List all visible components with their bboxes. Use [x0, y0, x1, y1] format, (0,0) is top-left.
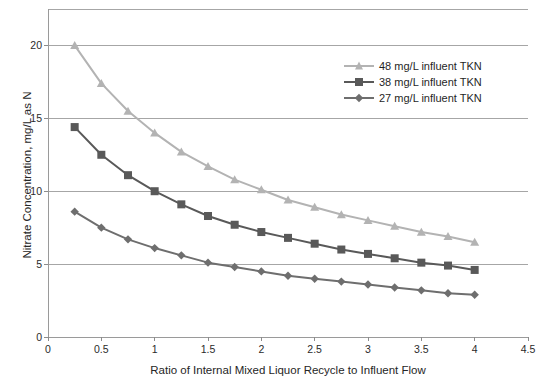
data-point-diamond [257, 267, 265, 275]
data-point-square [337, 246, 345, 254]
x-tick-label-3: 1.5 [188, 343, 228, 355]
legend-item-1: 38 mg/L influent TKN [344, 74, 482, 90]
legend-label-1: 38 mg/L influent TKN [379, 76, 482, 88]
data-point-square [71, 123, 79, 131]
diamond-marker-icon [355, 94, 363, 102]
data-point-diamond [417, 286, 425, 294]
y-axis-title: Nitrate Concentration, mg/L as N [18, 10, 36, 340]
data-point-square [311, 240, 319, 248]
legend-swatch-square [344, 75, 374, 89]
data-point-diamond [204, 258, 212, 266]
data-point-square [391, 254, 399, 262]
data-point-square [97, 151, 105, 159]
legend-swatch-diamond [344, 91, 374, 105]
square-marker-icon [355, 78, 363, 86]
series-2 [70, 207, 478, 298]
data-point-square [151, 187, 159, 195]
data-point-square [124, 171, 132, 179]
data-point-diamond [97, 223, 105, 231]
data-point-diamond [124, 235, 132, 243]
data-point-triangle [230, 175, 239, 183]
legend-item-0: 48 mg/L influent TKN [344, 58, 482, 74]
legend-swatch-triangle [344, 59, 374, 73]
series-1 [71, 123, 479, 274]
x-tick-label-9: 4.5 [508, 343, 542, 355]
x-tick-label-4: 2 [241, 343, 281, 355]
data-point-square [444, 262, 452, 270]
data-point-square [471, 266, 479, 274]
x-tick-label-6: 3 [348, 343, 388, 355]
data-point-square [364, 250, 372, 258]
data-point-square [204, 212, 212, 220]
data-point-diamond [310, 274, 318, 282]
data-point-diamond [177, 251, 185, 259]
nitrate-concentration-chart: 05101520 00.511.522.533.544.5 Nitrate Co… [0, 0, 542, 388]
x-tick-label-0: 0 [28, 343, 68, 355]
data-point-diamond [470, 291, 478, 299]
triangle-marker-icon [355, 62, 363, 70]
data-point-square [417, 259, 425, 267]
series-line-1 [75, 127, 475, 270]
x-tick-label-8: 4 [455, 343, 495, 355]
data-point-square [231, 221, 239, 229]
data-point-triangle [204, 162, 213, 170]
data-point-diamond [337, 277, 345, 285]
data-point-diamond [150, 244, 158, 252]
data-point-diamond [70, 207, 78, 215]
x-tick-label-1: 0.5 [81, 343, 121, 355]
x-axis-title: Ratio of Internal Mixed Liquor Recycle t… [48, 364, 528, 376]
data-point-diamond [364, 280, 372, 288]
legend-label-2: 27 mg/L influent TKN [379, 92, 482, 104]
x-tick-label-5: 2.5 [295, 343, 335, 355]
data-point-diamond [284, 272, 292, 280]
legend-label-0: 48 mg/L influent TKN [379, 60, 482, 72]
data-point-square [177, 200, 185, 208]
x-tick-label-2: 1 [135, 343, 175, 355]
chart-legend: 48 mg/L influent TKN 38 mg/L influent TK… [344, 58, 482, 106]
legend-item-2: 27 mg/L influent TKN [344, 90, 482, 106]
data-point-square [257, 228, 265, 236]
x-tick-label-7: 3.5 [401, 343, 441, 355]
data-point-square [284, 234, 292, 242]
series-line-2 [75, 212, 475, 295]
data-point-diamond [390, 283, 398, 291]
data-point-diamond [444, 289, 452, 297]
